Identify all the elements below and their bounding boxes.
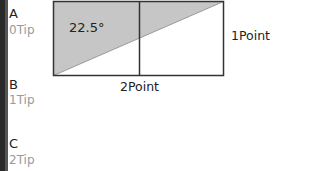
right-side-label: 1Point	[231, 28, 270, 43]
angle-label: 22.5°	[69, 20, 104, 35]
bottom-side-label: 2Point	[120, 79, 159, 94]
